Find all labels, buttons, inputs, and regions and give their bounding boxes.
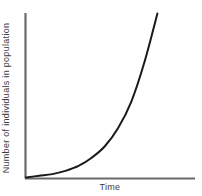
plot-area [0, 0, 202, 196]
exponential-growth-chart: Number of individuals in population Time [0, 0, 202, 196]
y-axis-label: Number of individuals in population [2, 0, 15, 196]
x-axis-label: Time [25, 183, 195, 192]
exponential-growth-curve [26, 14, 157, 178]
